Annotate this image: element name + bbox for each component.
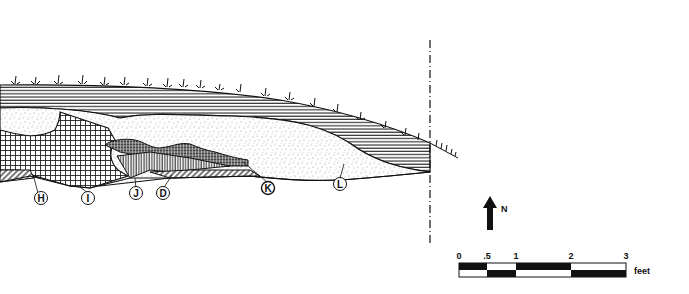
label-H-text: H (37, 193, 44, 204)
north-label: N (501, 204, 508, 214)
label-K-text: K (264, 183, 272, 194)
label-D-text: D (159, 188, 166, 199)
scale-tick-half: .5 (483, 251, 491, 261)
label-D: D (157, 187, 170, 200)
label-J-text: J (133, 188, 139, 199)
label-L-text: L (337, 179, 343, 190)
label-I-text: I (87, 193, 90, 204)
label-L: L (334, 178, 347, 191)
scale-unit: feet (634, 266, 650, 276)
label-I: I (82, 192, 95, 205)
label-J: J (130, 187, 143, 200)
scale-bar: 0 .5 1 2 3 feet (456, 251, 650, 277)
scale-tick-0: 0 (456, 251, 461, 261)
profile-drawing: H I J D K L N 0 .5 1 2 3 feet (0, 0, 689, 294)
north-arrow-icon: N (483, 196, 508, 230)
label-H: H (35, 192, 48, 205)
scale-tick-3: 3 (623, 251, 628, 261)
label-K: K (262, 182, 275, 195)
scale-tick-1: 1 (513, 251, 518, 261)
scale-tick-2: 2 (568, 251, 573, 261)
